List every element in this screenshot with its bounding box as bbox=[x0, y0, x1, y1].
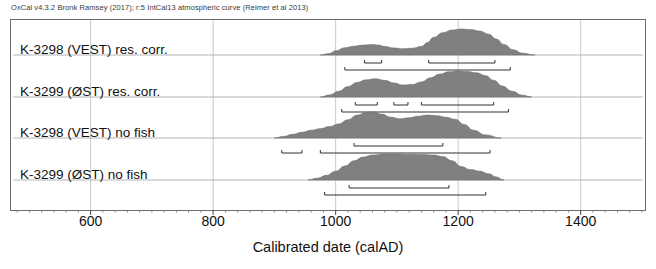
row-label-1: K-3299 (ØST) res. corr. bbox=[20, 84, 160, 99]
oxcal-multiplot: OxCal v4.3.2 Bronk Ramsey (2017); r:5 In… bbox=[0, 0, 656, 269]
probability-distribution bbox=[320, 29, 534, 55]
x-tick-label-1400: 1400 bbox=[551, 213, 611, 229]
range-bar-68 bbox=[355, 102, 377, 105]
range-bar-68 bbox=[394, 102, 408, 105]
range-bar-68 bbox=[429, 60, 495, 63]
row-label-3: K-3299 (ØST) no fish bbox=[20, 167, 148, 182]
range-bar-95 bbox=[342, 109, 509, 112]
range-bar-68 bbox=[354, 143, 443, 146]
x-axis-title: Calibrated date (calAD) bbox=[0, 239, 656, 255]
range-bar-68 bbox=[349, 185, 449, 188]
range-bar-95 bbox=[345, 67, 510, 70]
x-tick-label-800: 800 bbox=[183, 213, 243, 229]
x-tick-label-1200: 1200 bbox=[428, 213, 488, 229]
x-tick-label-600: 600 bbox=[61, 213, 121, 229]
probability-distribution bbox=[308, 154, 504, 180]
range-bar-95 bbox=[325, 192, 486, 195]
row-label-2: K-3298 (VEST) no fish bbox=[20, 125, 155, 140]
x-tick-label-1000: 1000 bbox=[306, 213, 366, 229]
probability-distribution bbox=[274, 112, 501, 138]
range-bar-95 bbox=[320, 150, 490, 153]
range-bar-95 bbox=[282, 150, 302, 153]
range-bar-68 bbox=[421, 102, 493, 105]
range-bar-68 bbox=[364, 60, 381, 63]
probability-distribution bbox=[320, 71, 531, 97]
row-label-0: K-3298 (VEST) res. corr. bbox=[20, 42, 168, 57]
